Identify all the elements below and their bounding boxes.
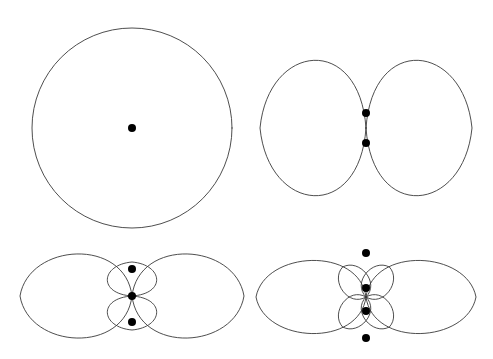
panel-single-element-omnidirectional-pattern[interactable] xyxy=(32,28,232,228)
array-element-dot xyxy=(362,284,370,292)
element-dot-group-panel-0 xyxy=(128,124,136,132)
array-element-dot xyxy=(128,124,136,132)
radiation-pattern-figure xyxy=(0,0,493,359)
panel-three-element-array-pattern[interactable] xyxy=(20,254,244,338)
array-element-dot xyxy=(362,139,370,147)
array-element-dot xyxy=(362,249,370,257)
array-element-dot xyxy=(128,292,136,300)
array-element-dot xyxy=(128,318,136,326)
array-element-dot xyxy=(362,109,370,117)
array-element-dot xyxy=(362,334,370,342)
array-element-dot xyxy=(128,265,136,273)
array-element-dot xyxy=(362,307,370,315)
